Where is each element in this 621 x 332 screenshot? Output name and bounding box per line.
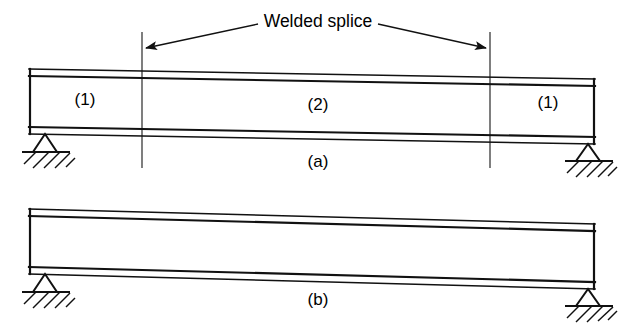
beam-b-top-flange-inner [29,216,595,231]
support-a-left [22,134,75,168]
support-b-left-hatching [24,292,75,308]
segment-label-1-left: (1) [75,90,96,109]
support-b-right [565,289,617,322]
support-b-left [22,274,75,308]
panel-a: Welded splice (1) (2) (1) [22,11,617,177]
leader-arrow-right [378,24,486,48]
caption-a: (a) [308,152,329,171]
beam-b-bottom-flange-inner [29,267,595,282]
beam-b-bottom-edge [29,274,595,289]
engineering-figure: Welded splice (1) (2) (1) [0,0,621,332]
segment-label-1-right: (1) [538,93,559,112]
support-b-right-triangle [576,289,600,306]
support-a-right [565,144,617,177]
beam-b-top-edge [29,209,595,224]
support-b-right-hatching [567,306,617,322]
support-a-right-hatching [567,161,617,177]
caption-b: (b) [308,290,329,309]
welded-splice-label: Welded splice [264,11,373,31]
leader-arrow-left [146,24,258,48]
support-b-left-triangle [33,274,57,292]
panel-b: (b) [22,209,617,322]
beam-b-body [29,209,595,289]
support-a-right-triangle [576,144,600,161]
support-a-left-triangle [33,134,57,152]
segment-label-2: (2) [308,95,329,114]
beam-diagram-canvas: Welded splice (1) (2) (1) [0,0,621,332]
support-a-left-hatching [24,152,75,168]
